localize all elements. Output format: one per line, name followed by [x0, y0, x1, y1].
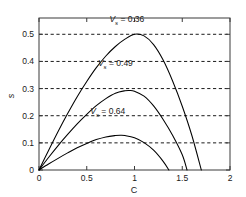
- y-tick-label: 0.1: [22, 138, 34, 148]
- x-tick-label: 2: [228, 173, 233, 183]
- plot-frame: [39, 18, 230, 170]
- y-tick-label: 0.5: [22, 29, 34, 39]
- x-axis-title: C: [131, 185, 138, 195]
- x-tick-label: 0: [37, 173, 42, 183]
- x-tick-label: 0.5: [81, 173, 93, 183]
- y-tick-label: 0.4: [22, 56, 34, 66]
- y-tick-label: 0.2: [22, 111, 34, 121]
- y-tick-label: 0: [29, 165, 34, 175]
- plot-canvas: 00.511.52 00.10.20.30.40.5 C s Vs = 0.36…: [0, 0, 246, 197]
- y-axis-title: s: [6, 93, 16, 98]
- x-tick-label: 1.5: [176, 173, 188, 183]
- chart-figure: 00.511.52 00.10.20.30.40.5 C s Vs = 0.36…: [0, 0, 246, 197]
- y-tick-label: 0.3: [22, 84, 34, 94]
- x-tick-label: 1: [132, 173, 137, 183]
